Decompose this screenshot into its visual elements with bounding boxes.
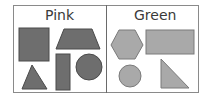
shapes-canvas [0, 0, 207, 98]
green-circle-shape [119, 65, 141, 87]
green-hexagon-shape [111, 30, 143, 59]
green-right-triangle-shape [161, 59, 189, 88]
pink-circle-shape [76, 54, 102, 80]
pink-rectangle-shape [56, 54, 70, 90]
green-rectangle-shape [146, 30, 194, 54]
pink-square-shape [19, 28, 49, 61]
pink-triangle-shape [22, 65, 47, 89]
pink-column-shapes [19, 28, 102, 90]
green-column-shapes [111, 30, 194, 88]
pink-trapezoid-shape [56, 29, 100, 49]
